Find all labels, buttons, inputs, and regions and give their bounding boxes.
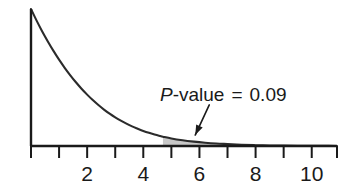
- p-value-number: 0.09: [250, 84, 287, 105]
- x-tick-label: 10: [300, 162, 323, 185]
- equals-sign: =: [231, 84, 242, 105]
- x-tick-label: 8: [250, 162, 262, 185]
- p-value-word: -value: [173, 84, 225, 105]
- x-tick-label: 2: [81, 162, 93, 185]
- p-value-density-chart: 246810 P-value=0.09: [0, 0, 349, 194]
- x-tick-label: 6: [194, 162, 206, 185]
- x-tick-label: 4: [137, 162, 149, 185]
- p-symbol: P: [160, 84, 173, 105]
- p-value-annotation-label: P-value=0.09: [160, 84, 287, 105]
